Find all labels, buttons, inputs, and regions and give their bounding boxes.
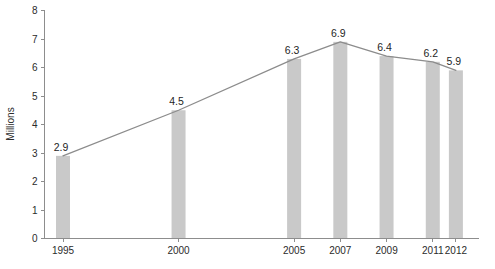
x-tick-label-2009: 2009 [375,245,398,256]
y-tick-label-0: 0 [32,233,38,244]
data-label-series: 2.94.56.36.96.46.25.9 [54,27,462,153]
x-tick-label-1995: 1995 [52,245,75,256]
data-label-2011: 6.2 [423,47,438,59]
y-tick-label-7: 7 [32,34,38,45]
x-axis-ticks: 1995200020052007200920112012 [52,239,468,256]
bar-series [56,42,463,239]
bar-2005 [287,59,301,239]
x-tick-label-2007: 2007 [329,245,352,256]
bar-2012 [449,70,463,238]
bar-2007 [333,42,347,239]
data-label-2012: 5.9 [447,55,462,67]
bar-1995 [56,156,70,239]
data-label-2009: 6.4 [377,41,392,53]
data-label-1995: 2.9 [54,141,69,153]
y-axis-ticks: 012345678 [32,5,45,244]
y-axis: 012345678 Millions [5,5,45,244]
trend-line [63,42,456,156]
x-axis: 1995200020052007200920112012 [45,239,480,256]
bar-2011 [426,62,440,239]
x-tick-label-2000: 2000 [167,245,190,256]
combo-bar-line-chart: 2.94.56.36.96.46.25.9 012345678 Millions… [0,0,495,269]
data-label-2005: 6.3 [285,44,300,56]
y-tick-label-3: 3 [32,148,38,159]
y-axis-title: Millions [5,107,16,140]
y-tick-label-4: 4 [32,119,38,130]
bar-2009 [380,56,394,238]
chart-container: 2.94.56.36.96.46.25.9 012345678 Millions… [0,0,495,269]
bar-2000 [172,110,186,238]
y-tick-label-6: 6 [32,62,38,73]
data-label-2007: 6.9 [331,27,346,39]
y-tick-label-5: 5 [32,91,38,102]
y-tick-label-8: 8 [32,5,38,16]
plot-area: 2.94.56.36.96.46.25.9 [54,27,463,239]
data-label-2000: 4.5 [169,95,184,107]
y-tick-label-2: 2 [32,176,38,187]
y-tick-label-1: 1 [32,205,38,216]
x-tick-label-2012: 2012 [445,245,468,256]
x-tick-label-2011: 2011 [422,245,444,256]
x-tick-label-2005: 2005 [283,245,306,256]
